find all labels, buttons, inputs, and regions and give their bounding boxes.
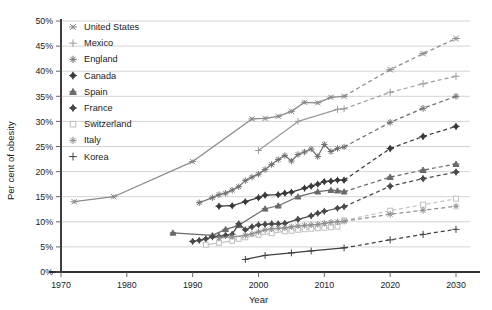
gridlines bbox=[61, 21, 470, 247]
legend-label: Mexico bbox=[84, 38, 113, 48]
data-point-marker bbox=[70, 121, 76, 127]
x-tick-label: 2030 bbox=[446, 280, 466, 290]
y-axis-label: Per cent of obesity bbox=[5, 121, 16, 200]
series-line-projected bbox=[344, 199, 456, 221]
series-line-projected bbox=[344, 126, 456, 180]
x-tick-label: 2020 bbox=[380, 280, 400, 290]
chart-canvas: 0%5%10%15%20%25%30%35%40%45%50% 19701980… bbox=[0, 0, 492, 310]
data-point-marker bbox=[236, 236, 241, 241]
x-tick-label: 1970 bbox=[51, 280, 71, 290]
y-tick-label: 5% bbox=[40, 242, 53, 252]
series-line-projected bbox=[344, 164, 456, 192]
data-point-marker bbox=[421, 202, 426, 207]
series-england bbox=[196, 93, 459, 206]
legend-item-mexico[interactable]: Mexico bbox=[69, 38, 113, 48]
legend-item-france[interactable]: France bbox=[69, 103, 113, 113]
x-tick-label: 1990 bbox=[183, 280, 203, 290]
series-line-projected bbox=[344, 172, 456, 207]
y-tick-label: 45% bbox=[35, 41, 53, 51]
y-tick-label: 10% bbox=[35, 217, 53, 227]
legend-label: France bbox=[84, 103, 113, 113]
y-tick-label: 20% bbox=[35, 167, 53, 177]
data-point-marker bbox=[217, 240, 222, 245]
data-series bbox=[71, 36, 460, 263]
y-tick-label: 40% bbox=[35, 66, 53, 76]
legend-label: Italy bbox=[84, 135, 101, 145]
y-tick-label: 15% bbox=[35, 192, 53, 202]
legend-label: Canada bbox=[84, 71, 117, 81]
y-tick-label: 0% bbox=[40, 267, 53, 277]
x-axis-ticks: 1970198019902000201020202030 bbox=[51, 272, 466, 290]
legend-item-england[interactable]: England bbox=[69, 54, 117, 64]
legend-item-italy[interactable]: Italy bbox=[69, 135, 101, 145]
x-tick-label: 1980 bbox=[117, 280, 137, 290]
legend-label: Switzerland bbox=[84, 119, 132, 129]
series-line-observed bbox=[259, 109, 345, 151]
y-tick-label: 50% bbox=[35, 16, 53, 26]
series-line-observed bbox=[245, 248, 344, 260]
data-point-marker bbox=[453, 196, 458, 201]
y-tick-label: 35% bbox=[35, 92, 53, 102]
y-tick-label: 25% bbox=[35, 142, 53, 152]
legend-item-spain[interactable]: Spain bbox=[69, 87, 107, 97]
legend-item-korea[interactable]: Korea bbox=[69, 152, 109, 162]
y-axis-ticks: 0%5%10%15%20%25%30%35%40%45%50% bbox=[35, 16, 61, 277]
legend-item-switzerland[interactable]: Switzerland bbox=[70, 119, 131, 129]
series-line-projected bbox=[344, 39, 456, 97]
chart-legend: United StatesMexicoEnglandCanadaSpainFra… bbox=[69, 22, 140, 162]
series-line-projected bbox=[344, 229, 456, 248]
data-point-marker bbox=[329, 225, 334, 230]
data-point-marker bbox=[203, 242, 208, 247]
data-point-marker bbox=[335, 224, 340, 229]
y-tick-label: 30% bbox=[35, 117, 53, 127]
legend-item-canada[interactable]: Canada bbox=[69, 71, 117, 81]
series-spain bbox=[170, 161, 460, 238]
x-tick-label: 2000 bbox=[249, 280, 269, 290]
obesity-trend-chart: 0%5%10%15%20%25%30%35%40%45%50% 19701980… bbox=[0, 0, 492, 310]
legend-label: Korea bbox=[84, 152, 109, 162]
series-line-projected bbox=[344, 76, 456, 109]
legend-item-united-states[interactable]: United States bbox=[69, 22, 140, 32]
legend-label: England bbox=[84, 54, 118, 64]
x-axis-label: Year bbox=[249, 294, 268, 305]
series-line-observed bbox=[199, 144, 344, 202]
legend-label: Spain bbox=[84, 87, 108, 97]
legend-label: United States bbox=[84, 22, 140, 32]
x-tick-label: 2010 bbox=[315, 280, 335, 290]
